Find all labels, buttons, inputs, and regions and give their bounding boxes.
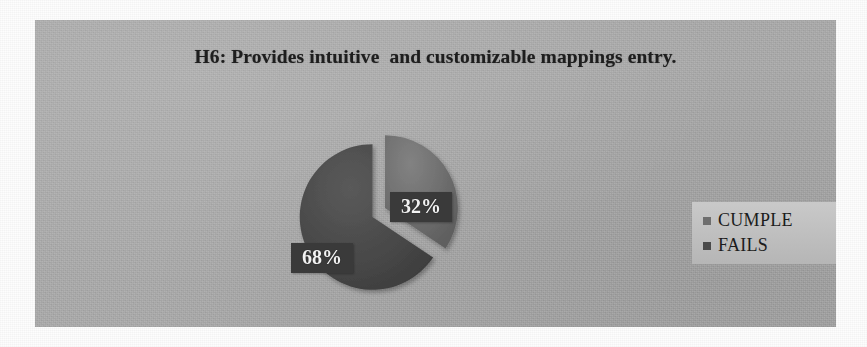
legend-label-cumple: CUMPLE [718, 210, 793, 231]
square-marker-icon [703, 217, 711, 225]
legend-label-fails: FAILS [718, 235, 768, 256]
pie-svg [231, 106, 496, 316]
square-marker-icon [703, 242, 711, 250]
chart-legend: CUMPLE FAILS [692, 202, 836, 264]
legend-item-cumple[interactable]: CUMPLE [692, 208, 836, 233]
pie-chart-graphic [231, 106, 496, 316]
legend-item-fails[interactable]: FAILS [692, 233, 836, 258]
pie-chart-panel: H6: Provides intuitive and customizable … [35, 20, 836, 327]
chart-title: H6: Provides intuitive and customizable … [35, 46, 836, 68]
data-label-cumple: 32% [390, 192, 452, 222]
data-label-fails: 68% [291, 243, 353, 273]
